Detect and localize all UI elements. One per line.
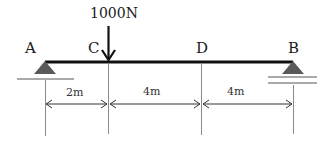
dimension-lines	[46, 100, 292, 108]
point-label-c: C	[88, 41, 99, 56]
point-label-d: D	[196, 41, 208, 56]
dimension-label-cd: 4m	[143, 86, 160, 97]
dimension-label-db: 4m	[227, 86, 244, 97]
load-arrow-icon	[102, 26, 115, 60]
load-label: 1000N	[90, 6, 138, 20]
pin-support-icon	[17, 61, 74, 79]
point-label-a: A	[25, 41, 36, 56]
dimension-label-ac: 2m	[66, 87, 83, 98]
roller-support-icon	[268, 61, 317, 83]
point-label-b: B	[288, 41, 299, 56]
beam-diagram	[0, 0, 332, 144]
extension-lines	[46, 64, 294, 136]
